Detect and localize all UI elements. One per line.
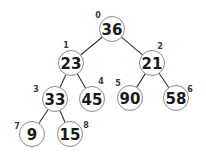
tree-node: 454: [80, 77, 105, 112]
node-value: 23: [61, 55, 82, 73]
node-index-label: 3: [33, 85, 39, 94]
node-index-label: 2: [157, 42, 163, 51]
node-index-label: 8: [83, 121, 89, 130]
tree-node: 212: [140, 42, 165, 76]
node-index-label: 7: [14, 122, 20, 131]
tree-edge: [137, 74, 146, 88]
node-index-label: 0: [95, 11, 101, 20]
node-index-label: 6: [187, 85, 193, 94]
node-value: 36: [102, 21, 123, 39]
tree-edge: [122, 37, 143, 55]
tree-node: 333: [33, 85, 67, 112]
tree-edge: [39, 109, 48, 123]
node-value: 58: [166, 90, 187, 108]
tree-edge: [77, 74, 85, 88]
node-index-label: 1: [63, 41, 69, 50]
node-value: 90: [120, 90, 141, 108]
tree-edge: [60, 74, 66, 87]
tree-node: 97: [14, 122, 44, 147]
tree-edge: [159, 73, 169, 87]
tree-edge: [60, 110, 65, 122]
tree-node: 158: [58, 121, 90, 147]
tree-node: 360: [95, 11, 124, 42]
tree-node: 586: [164, 85, 194, 111]
node-value: 21: [142, 55, 163, 73]
node-value: 33: [45, 91, 66, 109]
binary-tree-diagram: 36023121233345490558697158: [0, 0, 206, 158]
tree-edge: [81, 37, 103, 55]
node-value: 15: [60, 126, 81, 144]
node-value: 45: [82, 91, 103, 109]
tree-node: 231: [59, 41, 84, 76]
tree-nodes: 36023121233345490558697158: [14, 11, 193, 147]
node-index-label: 4: [98, 77, 104, 86]
node-index-label: 5: [115, 79, 121, 88]
node-value: 9: [27, 126, 37, 144]
tree-node: 905: [115, 79, 142, 111]
